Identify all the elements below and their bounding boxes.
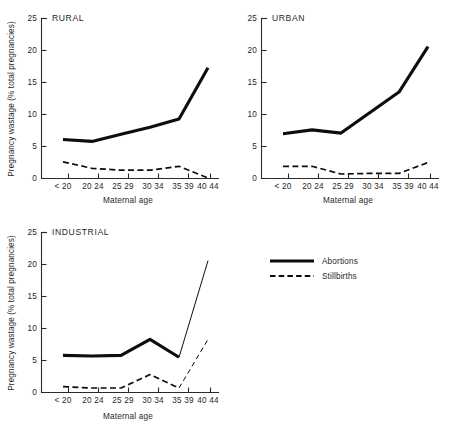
industrial-series-abortions-extension [179, 261, 208, 358]
legend-label-abortions: Abortions [322, 257, 358, 266]
rural-ytick-0: 0 [32, 174, 37, 183]
rural-ytick-5: 5 [32, 142, 37, 151]
urban-ytick-20: 20 [247, 46, 257, 55]
urban-y-ticks [262, 19, 267, 179]
industrial-xtick-0: < 20 [55, 396, 72, 405]
rural-xtick-2: 25 29 [112, 182, 134, 191]
rural-series-stillbirths [63, 162, 208, 178]
urban-xtick-0: < 20 [275, 182, 292, 191]
legend-entry-abortions: Abortions [270, 257, 358, 266]
industrial-x-ticks [69, 388, 211, 393]
chart-panel-industrial: 0 5 10 15 20 25 < 20 20 24 25 29 30 34 3… [0, 214, 240, 426]
industrial-ytick-10: 10 [27, 324, 37, 333]
urban-series-stillbirths [283, 163, 428, 175]
rural-y-ticks [42, 19, 47, 179]
industrial-ytick-5: 5 [32, 356, 37, 365]
industrial-ytick-25: 25 [27, 228, 37, 237]
rural-ytick-25: 25 [27, 14, 37, 23]
industrial-ytick-20: 20 [27, 260, 37, 269]
industrial-ytick-15: 15 [27, 292, 37, 301]
industrial-xtick-5: 40 44 [197, 396, 219, 405]
industrial-ytick-0: 0 [32, 388, 37, 397]
industrial-xtick-4: 35 39 [172, 396, 194, 405]
rural-xtick-4: 35 39 [172, 182, 194, 191]
rural-xtick-3: 30 34 [142, 182, 164, 191]
chart-panel-urban: 0 5 10 15 20 25 < 20 20 24 25 29 30 34 3… [220, 0, 449, 212]
rural-ytick-10: 10 [27, 110, 37, 119]
urban-xtick-2: 25 29 [332, 182, 354, 191]
industrial-svg: 0 5 10 15 20 25 < 20 20 24 25 29 30 34 3… [0, 214, 240, 426]
chart-panel-rural: 0 5 10 15 20 25 < 20 20 24 25 29 30 34 3… [0, 0, 230, 212]
urban-ytick-5: 5 [252, 142, 257, 151]
industrial-xtick-3: 30 34 [142, 396, 164, 405]
rural-ytick-20: 20 [27, 46, 37, 55]
industrial-series-stillbirths-extension [179, 339, 208, 388]
urban-xlabel: Maternal age [323, 196, 373, 205]
industrial-xtick-1: 20 24 [82, 396, 104, 405]
legend-entry-stillbirths: Stillbirths [270, 272, 357, 281]
rural-xtick-1: 20 24 [82, 182, 104, 191]
rural-x-ticks [69, 174, 211, 179]
chart-legend: Abortions Stillbirths [262, 250, 412, 296]
industrial-xtick-2: 25 29 [112, 396, 134, 405]
legend-label-stillbirths: Stillbirths [322, 272, 357, 281]
rural-xlabel: Maternal age [103, 196, 153, 205]
urban-ytick-0: 0 [252, 174, 257, 183]
rural-ytick-15: 15 [27, 78, 37, 87]
industrial-ylabel: Pregnancy wastage (% total pregnancies) [7, 235, 16, 391]
figure-pregnancy-wastage: 0 5 10 15 20 25 < 20 20 24 25 29 30 34 3… [0, 0, 449, 426]
rural-series-abortions [63, 68, 208, 142]
urban-svg: 0 5 10 15 20 25 < 20 20 24 25 29 30 34 3… [220, 0, 449, 212]
urban-panel-title: URBAN [272, 13, 305, 23]
industrial-series-stillbirths [63, 375, 179, 388]
industrial-y-ticks [42, 233, 47, 393]
rural-panel-title: RURAL [52, 13, 84, 23]
industrial-panel-title: INDUSTRIAL [52, 227, 109, 237]
rural-svg: 0 5 10 15 20 25 < 20 20 24 25 29 30 34 3… [0, 0, 230, 212]
urban-series-abortions [283, 47, 428, 134]
urban-xtick-1: 20 24 [302, 182, 324, 191]
industrial-series-abortions [63, 339, 179, 357]
rural-xtick-0: < 20 [55, 182, 72, 191]
rural-ylabel: Pregnancy wastage (% total pregnancies) [7, 21, 16, 177]
urban-xtick-3: 30 34 [362, 182, 384, 191]
industrial-xlabel: Maternal age [103, 412, 153, 421]
urban-xtick-5: 40 44 [417, 182, 439, 191]
urban-ytick-15: 15 [247, 78, 257, 87]
urban-ytick-25: 25 [247, 14, 257, 23]
legend-svg: Abortions Stillbirths [262, 250, 412, 296]
urban-ytick-10: 10 [247, 110, 257, 119]
rural-xtick-5: 40 44 [197, 182, 219, 191]
urban-xtick-4: 35 39 [392, 182, 414, 191]
